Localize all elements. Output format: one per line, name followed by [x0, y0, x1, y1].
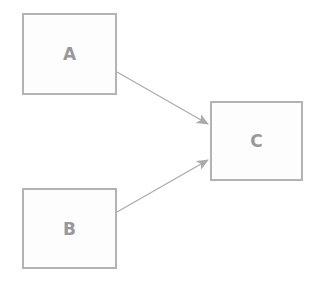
node-b-label: B [63, 219, 76, 239]
node-c[interactable]: C [210, 101, 303, 181]
node-a-label: A [63, 44, 76, 64]
edge-a-to-c [117, 72, 208, 124]
node-a[interactable]: A [22, 13, 117, 95]
node-c-label: C [250, 131, 262, 151]
edge-b-to-c [117, 160, 208, 212]
node-b[interactable]: B [22, 188, 117, 269]
